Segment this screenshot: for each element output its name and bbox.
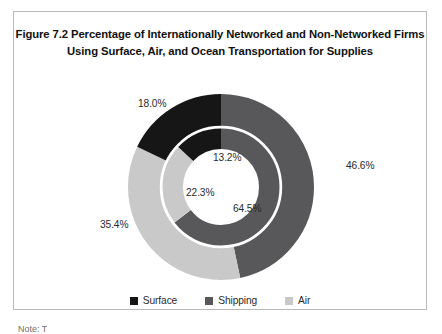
figure-note: Note: T: [18, 324, 47, 334]
figure-title: Figure 7.2 Percentage of Internationally…: [14, 26, 426, 60]
figure-title-line-2: Using Surface, Air, and Ocean Transporta…: [14, 43, 426, 60]
nested-donut-chart: [121, 92, 321, 282]
legend-swatch-surface-icon: [130, 297, 138, 305]
figure-frame: Figure 7.2 Percentage of Internationally…: [13, 11, 427, 310]
label-inner-shipping: 64.5%: [233, 203, 261, 214]
donut-svg: [121, 92, 321, 282]
legend-label-air: Air: [298, 295, 310, 306]
label-inner-air: 22.3%: [186, 187, 214, 198]
label-outer-surface: 18.0%: [138, 98, 166, 109]
legend-swatch-air-icon: [285, 297, 293, 305]
legend-swatch-shipping-icon: [205, 297, 213, 305]
legend-item-surface[interactable]: Surface: [130, 295, 177, 306]
legend-label-surface: Surface: [143, 295, 177, 306]
figure-title-line-1: Figure 7.2 Percentage of Internationally…: [14, 26, 426, 43]
label-outer-shipping: 46.6%: [346, 160, 374, 171]
legend-label-shipping: Shipping: [218, 295, 257, 306]
chart-legend: Surface Shipping Air: [14, 295, 426, 306]
label-outer-air: 35.4%: [100, 219, 128, 230]
legend-item-air[interactable]: Air: [285, 295, 310, 306]
legend-item-shipping[interactable]: Shipping: [205, 295, 257, 306]
label-inner-surface: 13.2%: [213, 152, 241, 163]
